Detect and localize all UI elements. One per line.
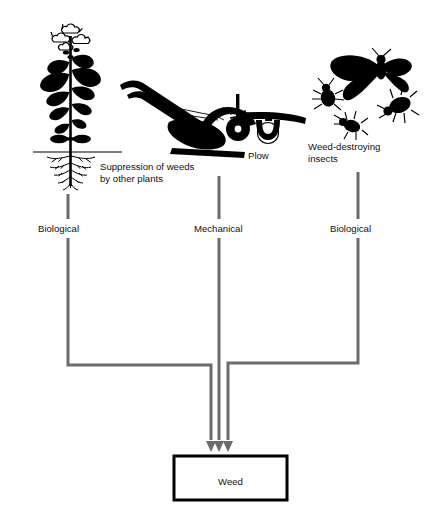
weed-destroying-insects-icon <box>312 48 419 140</box>
category-label-left: Biological <box>38 223 79 234</box>
arrowhead-right <box>223 441 233 452</box>
caption-center-line1: Plow <box>248 150 269 161</box>
plow-wheel-small-cap <box>265 116 272 121</box>
caption-right-line2: insects <box>308 153 338 164</box>
plow-wheel-large-hub <box>235 126 242 133</box>
beetle-bottom-icon <box>334 111 368 140</box>
weed-control-diagram: Suppression of weeds by other plants Plo… <box>0 0 440 526</box>
plow-runner <box>170 148 245 158</box>
beetle-right-icon <box>377 86 419 123</box>
caption-left-line1: Suppression of weeds <box>100 161 195 172</box>
category-label-center: Mechanical <box>194 223 243 234</box>
connector-right <box>228 238 358 440</box>
moth-icon <box>330 48 411 100</box>
horse-drawn-plow-icon <box>120 81 306 158</box>
caption-left-line2: by other plants <box>100 173 163 184</box>
plow-moldboard <box>168 119 226 150</box>
category-label-right: Biological <box>330 223 371 234</box>
connector-left <box>68 238 211 440</box>
arrowhead-center <box>214 441 224 452</box>
arrowhead-left <box>206 441 216 452</box>
beetle-left-icon <box>312 78 344 110</box>
plant-roots <box>47 152 95 190</box>
caption-right-line1: Weed-destroying <box>308 141 380 152</box>
weed-target-label: Weed <box>218 476 243 487</box>
